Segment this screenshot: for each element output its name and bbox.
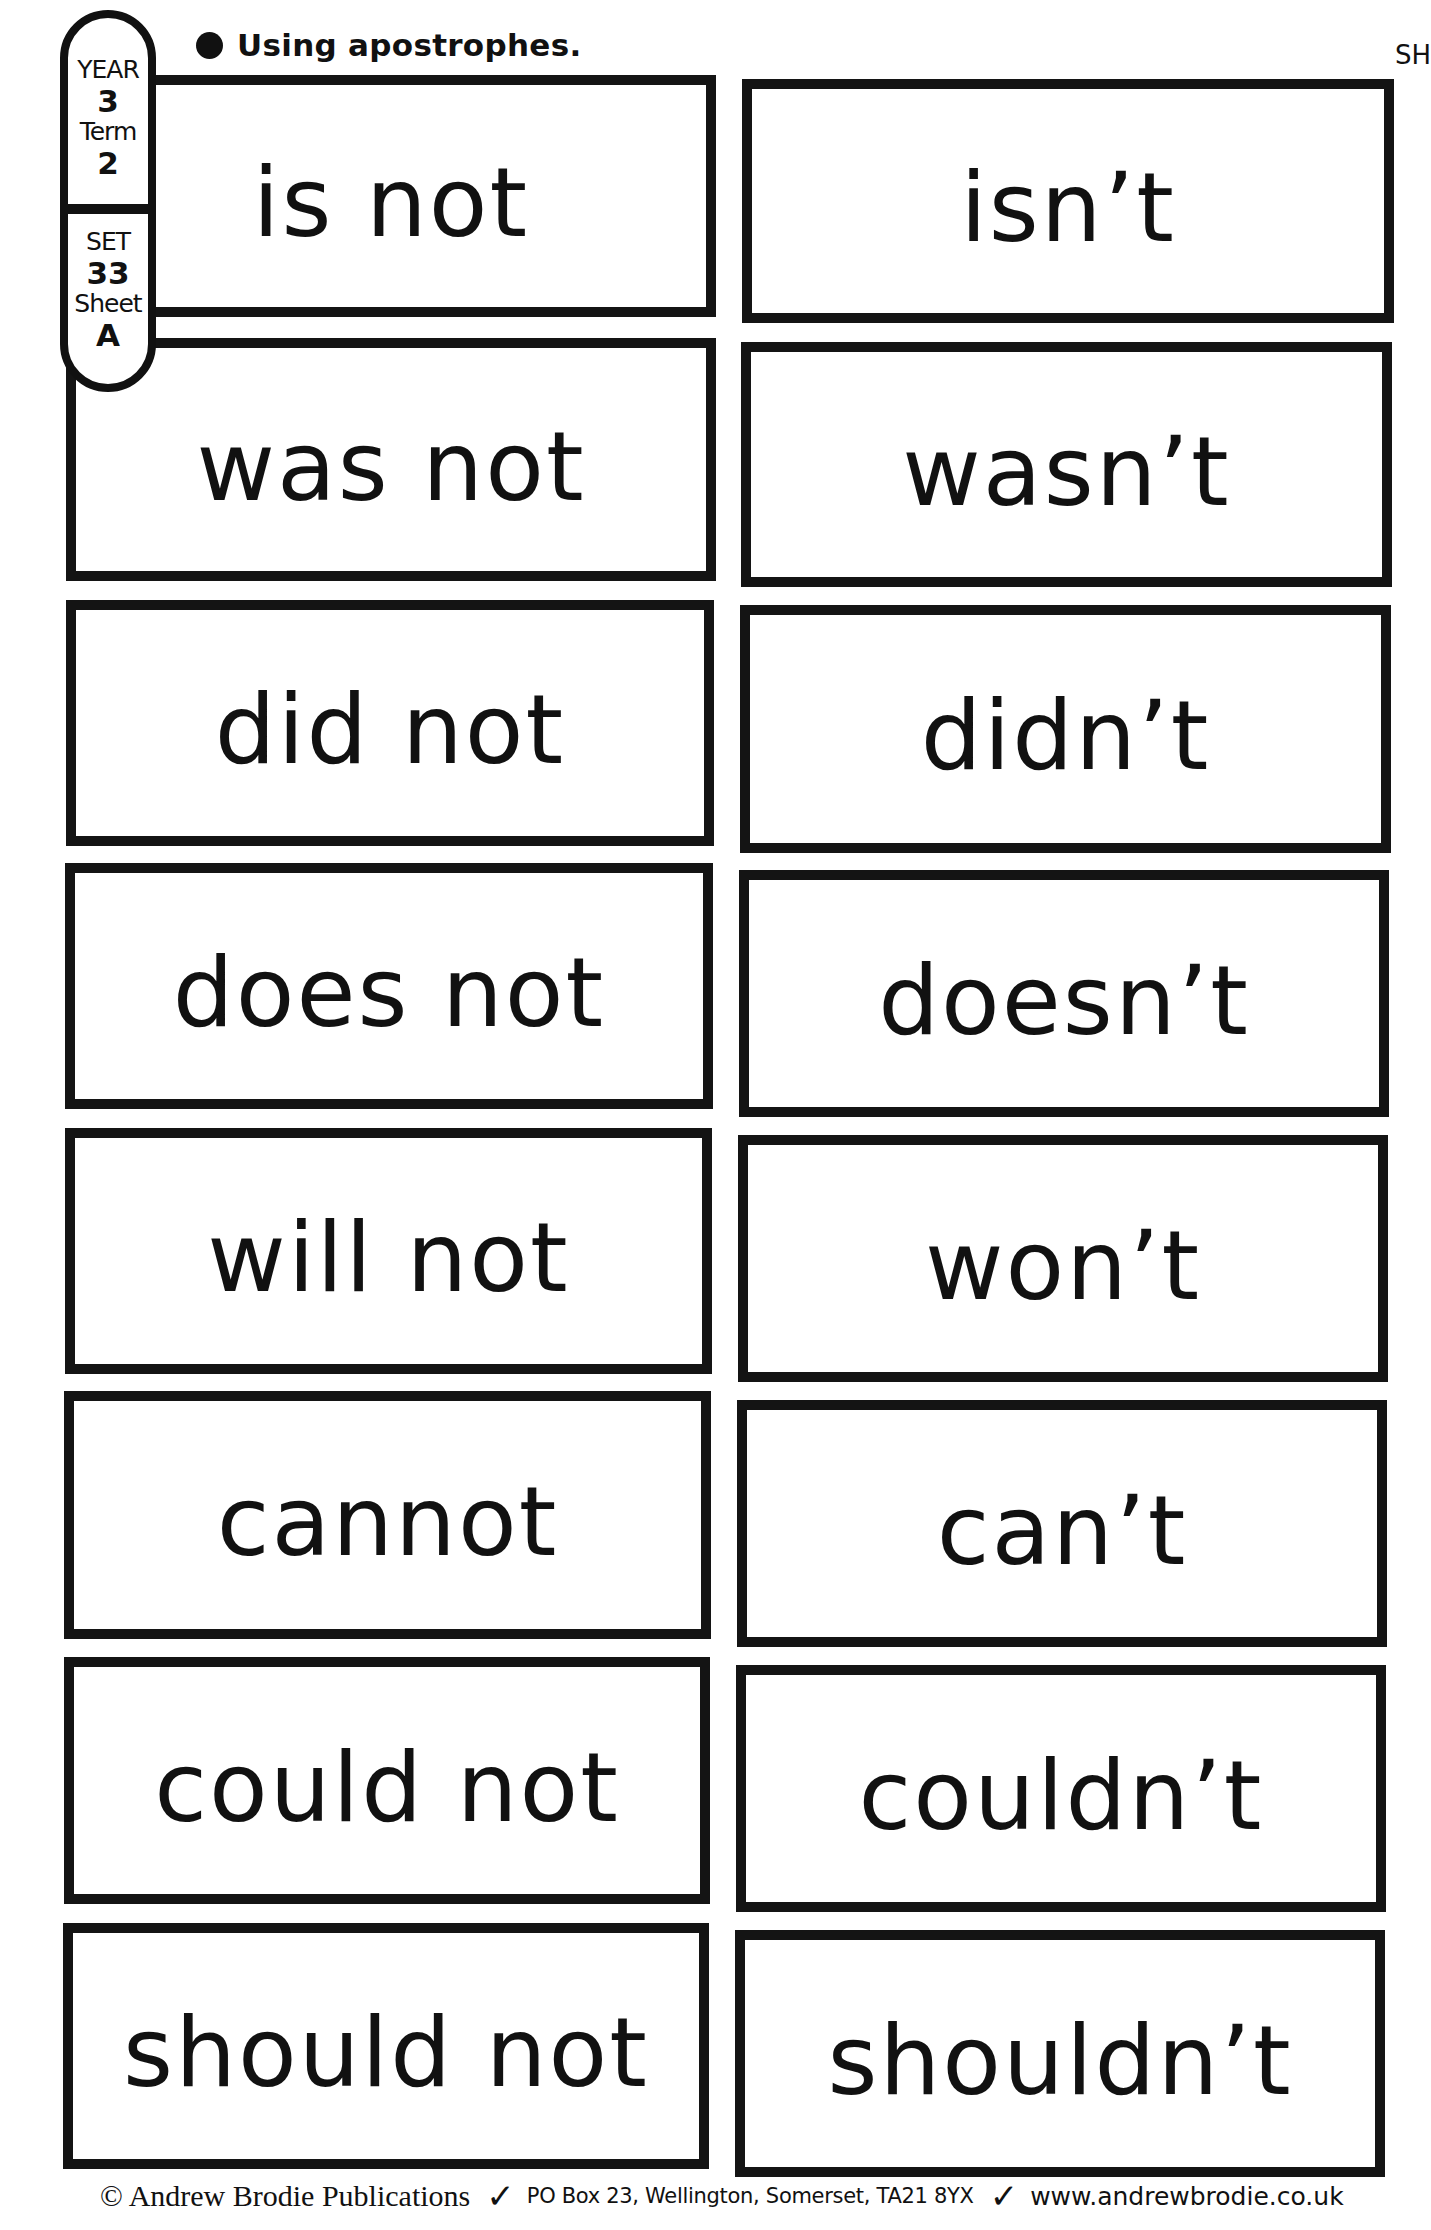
set-value: 33: [86, 256, 129, 290]
copyright-text: © Andrew Brodie Publications: [100, 2179, 470, 2213]
sheet-label: Sheet: [74, 290, 141, 318]
word-card-right-2: wasn’t: [741, 342, 1392, 587]
year-term-section: YEAR 3 Term 2: [68, 18, 148, 204]
word-card-left-1: is not: [66, 75, 716, 317]
tick-icon: ✓: [486, 2176, 515, 2216]
heading-text: Using apostrophes.: [237, 27, 581, 63]
word-card-left-6: cannot: [64, 1391, 711, 1639]
card-word: did not: [215, 668, 565, 778]
word-card-left-5: will not: [65, 1128, 712, 1374]
year-label: YEAR: [77, 56, 139, 84]
tab-divider: [68, 204, 148, 214]
word-card-right-3: didn’t: [740, 605, 1391, 853]
card-word: does not: [173, 931, 605, 1041]
tick-icon: ✓: [990, 2176, 1019, 2216]
card-word: isn’t: [960, 146, 1176, 256]
word-card-right-5: won’t: [738, 1135, 1388, 1382]
card-word: shouldn’t: [827, 1999, 1292, 2109]
cropped-edge-text: SH: [1395, 40, 1431, 70]
set-sheet-section: SET 33 Sheet A: [68, 214, 148, 384]
word-card-left-3: did not: [66, 600, 714, 846]
sheet-value: A: [96, 318, 120, 352]
year-set-tab: YEAR 3 Term 2 SET 33 Sheet A: [60, 10, 156, 392]
card-word: couldn’t: [859, 1734, 1264, 1844]
address-text: PO Box 23, Wellington, Somerset, TA21 8Y…: [527, 2184, 974, 2208]
word-card-right-1: isn’t: [742, 79, 1394, 323]
word-card-right-8: shouldn’t: [735, 1930, 1385, 2177]
worksheet-heading: Using apostrophes.: [196, 24, 581, 66]
card-word: is not: [253, 141, 529, 251]
year-value: 3: [97, 84, 119, 118]
card-word: won’t: [925, 1204, 1201, 1314]
word-card-left-7: could not: [64, 1657, 710, 1904]
word-card-right-6: can’t: [737, 1400, 1387, 1647]
publisher-footer: © Andrew Brodie Publications ✓ PO Box 23…: [100, 2172, 1344, 2220]
card-word: could not: [154, 1726, 620, 1836]
term-value: 2: [97, 146, 119, 180]
card-word: cannot: [217, 1460, 559, 1570]
card-word: didn’t: [921, 674, 1211, 784]
card-word: should not: [123, 1991, 649, 2101]
word-card-left-2: was not: [66, 338, 716, 581]
word-card-right-7: couldn’t: [736, 1665, 1386, 1912]
card-word: was not: [196, 405, 585, 515]
card-word: doesn’t: [878, 939, 1250, 1049]
word-card-right-4: doesn’t: [739, 870, 1389, 1117]
word-card-left-4: does not: [65, 863, 713, 1109]
website-text: www.andrewbrodie.co.uk: [1030, 2182, 1344, 2211]
card-word: will not: [207, 1196, 569, 1306]
card-word: can’t: [937, 1469, 1188, 1579]
set-label: SET: [86, 228, 130, 256]
word-card-left-8: should not: [63, 1923, 709, 2169]
term-label: Term: [80, 118, 137, 146]
card-word: wasn’t: [902, 410, 1230, 520]
bullet-icon: [196, 32, 223, 59]
